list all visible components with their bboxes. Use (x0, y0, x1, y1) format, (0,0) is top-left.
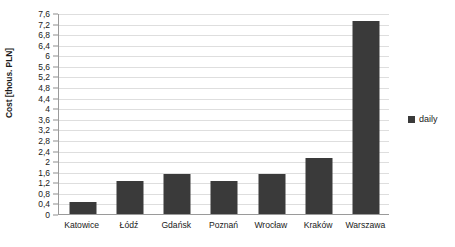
y-axis-tick-label: 4,4 (38, 94, 50, 103)
chart-title (0, 0, 390, 2)
y-axis-tick-label: 6,8 (38, 31, 50, 40)
bar-slot (295, 14, 342, 214)
x-axis-tick-label: Katowice (64, 221, 99, 230)
y-axis-tick-label: 3,6 (38, 116, 50, 125)
y-axis-tick-label: 6 (45, 52, 50, 61)
legend-swatch-icon (408, 116, 415, 123)
x-axis-tick-label: Wrocław (254, 221, 287, 230)
y-axis-tick-label: 6,4 (38, 41, 50, 50)
y-axis-tick-label: 5,2 (38, 73, 50, 82)
y-axis-tick-label: 2,4 (38, 147, 50, 156)
bar[interactable] (211, 181, 238, 214)
legend-label: daily (419, 114, 438, 124)
bar-chart: Cost [thous. PLN] 7,67,26,86,465,65,24,8… (0, 0, 455, 247)
y-axis-tick-label: 5,6 (38, 63, 50, 72)
y-axis-tick-label: 2 (45, 158, 50, 167)
y-axis-tick-label: 0,4 (38, 200, 50, 209)
x-axis-tick-label: Łódź (120, 221, 139, 230)
y-axis-tick-label: 0,8 (38, 190, 50, 199)
x-axis-tick-label: Warszawa (345, 221, 385, 230)
y-axis-tick-label: 2,8 (38, 137, 50, 146)
y-axis-tick-label: 1,2 (38, 179, 50, 188)
bar[interactable] (258, 174, 285, 214)
bar-slot (248, 14, 295, 214)
x-axis-tick-label: Gdańsk (161, 221, 191, 230)
y-axis-tick-label: 4,8 (38, 84, 50, 93)
bar[interactable] (353, 21, 380, 214)
y-axis-tick-label: 3,2 (38, 126, 50, 135)
y-axis-tick-label: 1,6 (38, 168, 50, 177)
y-axis-tick-label: 7,2 (38, 20, 50, 29)
bar[interactable] (116, 181, 143, 214)
bar-slot (59, 14, 106, 214)
y-axis-tick-label: 7,6 (38, 10, 50, 19)
x-axis-tick-label: Poznań (209, 221, 238, 230)
plot-area (58, 14, 389, 215)
bar[interactable] (69, 202, 96, 214)
x-axis-tick-label: Kraków (304, 221, 333, 230)
y-axis-tick-labels: 7,67,26,86,465,65,24,84,443,63,22,82,421… (0, 14, 58, 215)
bar[interactable] (164, 174, 191, 214)
chart-legend: daily (408, 114, 438, 124)
bar[interactable] (306, 158, 333, 214)
bar-slot (106, 14, 153, 214)
bars-layer (59, 14, 389, 214)
bar-slot (154, 14, 201, 214)
bar-slot (201, 14, 248, 214)
x-axis-tick-labels: KatowiceŁódźGdańskPoznańWrocławKrakówWar… (58, 221, 389, 241)
y-axis-tick-label: 0 (45, 211, 50, 220)
y-axis-tick-label: 4 (45, 105, 50, 114)
bar-slot (343, 14, 390, 214)
